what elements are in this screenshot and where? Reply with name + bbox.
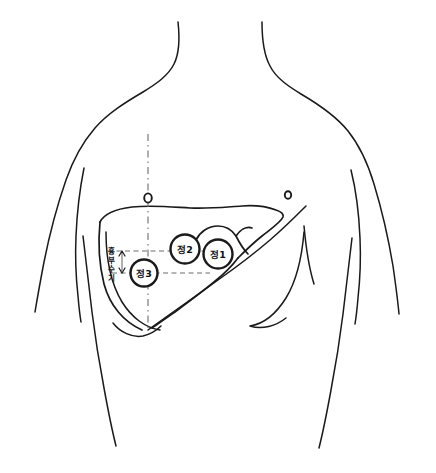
reference-guides (108, 134, 213, 332)
vertical-measure-arrow (119, 251, 125, 273)
treatment-point-2[interactable]: 정2 (171, 235, 200, 264)
measure-note-line1: 흉 (108, 246, 115, 256)
treatment-point-3[interactable]: 정3 (131, 260, 158, 287)
measure-note-line4: 기 (108, 273, 115, 283)
left-nipple-marker (144, 193, 152, 202)
measure-note-line3: 수 (108, 265, 115, 274)
treatment-point-1-label: 정1 (210, 249, 226, 260)
right-nipple-marker (285, 191, 291, 199)
landmark-markers (144, 191, 291, 202)
treatment-point-1[interactable]: 정1 (204, 240, 233, 269)
vertical-measure-note: 흉 부 수 기 (108, 246, 115, 283)
torso-liver-diagram: 흉 부 수 기 정3 정2 정1 (0, 0, 436, 473)
torso-outline (35, 22, 399, 448)
measure-note-line2: 부 (108, 256, 115, 265)
treatment-point-3-label: 정3 (136, 268, 152, 279)
treatment-point-2-label: 정2 (177, 244, 193, 255)
diagram-canvas: 흉 부 수 기 정3 정2 정1 (0, 0, 436, 473)
liver-outline (99, 206, 283, 330)
